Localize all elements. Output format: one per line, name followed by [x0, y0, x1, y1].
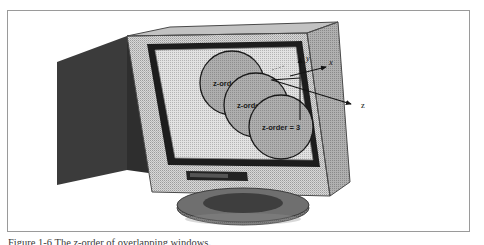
- z-axis-label: z: [361, 100, 365, 110]
- figure-root: z-order = 1 z-order = 2 z-order = 3 y: [0, 0, 484, 245]
- x-axis-label: x: [328, 57, 333, 67]
- illustration-stage: z-order = 1 z-order = 2 z-order = 3 y: [0, 0, 484, 245]
- monitor-illustration: z-order = 1 z-order = 2 z-order = 3 y: [0, 0, 484, 245]
- monitor-control-strip[interactable]: [186, 171, 248, 181]
- y-axis-label: y: [305, 53, 310, 63]
- figure-caption: Figure 1-6 The z-order of overlapping wi…: [8, 237, 308, 245]
- circle-z3-label: z-order = 3: [262, 123, 300, 132]
- base-shadow: [185, 213, 301, 225]
- circle-z3[interactable]: z-order = 3: [249, 95, 313, 159]
